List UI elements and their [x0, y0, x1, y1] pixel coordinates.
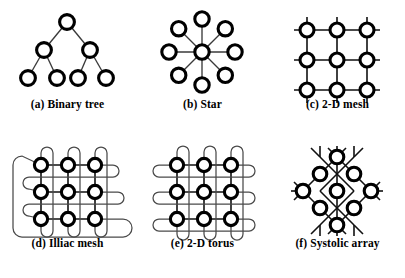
- panel-systolic-array: (f) Systolic array: [270, 139, 405, 278]
- caption-2d-mesh: (c) 2-D mesh: [270, 98, 405, 110]
- caption-2d-torus: (e) 2-D torus: [135, 237, 270, 249]
- star-diagram: [135, 0, 270, 110]
- binary-tree-nodes: [21, 15, 114, 86]
- systolic-array-nodes: [296, 150, 378, 232]
- network-topologies-figure: (a) Binary tree: [0, 0, 405, 278]
- panel-star: (b) Star: [135, 0, 270, 139]
- star-center-node: [195, 45, 209, 59]
- star-nodes: [162, 12, 242, 92]
- panel-2d-torus: (e) 2-D torus: [135, 139, 270, 278]
- caption-illiac-mesh: (d) Illiac mesh: [0, 237, 135, 249]
- systolic-array-diagram: [270, 139, 405, 249]
- panel-binary-tree: (a) Binary tree: [0, 0, 135, 139]
- caption-binary-tree: (a) Binary tree: [0, 98, 135, 110]
- panel-2d-mesh: (c) 2-D mesh: [270, 0, 405, 139]
- mesh-2d-nodes: [300, 23, 374, 97]
- torus-2d-diagram: [135, 139, 270, 249]
- binary-tree-diagram: [0, 0, 135, 110]
- illiac-mesh-nodes: [34, 158, 101, 225]
- caption-star: (b) Star: [135, 98, 270, 110]
- caption-systolic-array: (f) Systolic array: [270, 237, 405, 249]
- torus-2d-nodes: [170, 158, 237, 225]
- illiac-mesh-diagram: [0, 139, 135, 249]
- panel-illiac-mesh: (d) Illiac mesh: [0, 139, 135, 278]
- mesh-2d-diagram: [270, 0, 405, 110]
